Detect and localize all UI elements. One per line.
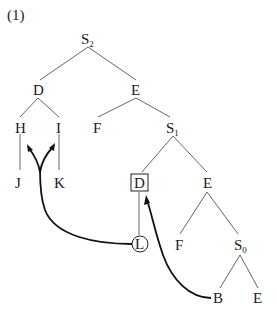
node-s0: S0	[234, 237, 247, 255]
node-s2: S2	[81, 31, 94, 49]
example-number: (1)	[7, 7, 25, 24]
arrowhead-d-icon	[144, 195, 150, 205]
node-j: J	[15, 175, 21, 191]
movement-arrows	[27, 143, 211, 298]
node-l-circled: L	[135, 236, 144, 252]
node-d-boxed: D	[134, 175, 145, 191]
arrowhead-h-icon	[27, 144, 33, 152]
syntax-tree-diagram: (1) S2 D E H I F S1 J K D E L F S0 B E	[0, 0, 277, 316]
node-k: K	[54, 175, 65, 191]
node-s1: S1	[166, 120, 179, 138]
node-h: H	[15, 120, 26, 136]
node-b: B	[213, 290, 223, 306]
node-d-top: D	[33, 82, 44, 98]
node-f-mid: F	[93, 120, 101, 136]
node-e-low: E	[253, 290, 262, 306]
node-e-top: E	[131, 82, 140, 98]
node-e-mid: E	[203, 175, 212, 191]
node-f-low: F	[175, 237, 183, 253]
node-i: I	[56, 120, 61, 136]
